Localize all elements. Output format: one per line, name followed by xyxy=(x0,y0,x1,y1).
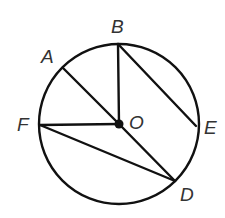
label-f: F xyxy=(17,114,30,135)
label-o: O xyxy=(129,112,144,133)
label-b: B xyxy=(111,16,124,37)
segment-fd xyxy=(40,125,175,181)
circle-diagram: A B O F E D xyxy=(0,0,225,218)
label-e: E xyxy=(204,117,217,138)
segment-fo xyxy=(40,124,119,125)
label-a: A xyxy=(40,46,54,67)
label-d: D xyxy=(180,184,194,205)
center-point-o xyxy=(115,120,124,129)
segment-bo xyxy=(118,44,119,124)
segment-od xyxy=(119,124,175,181)
segment-ao xyxy=(63,68,119,124)
